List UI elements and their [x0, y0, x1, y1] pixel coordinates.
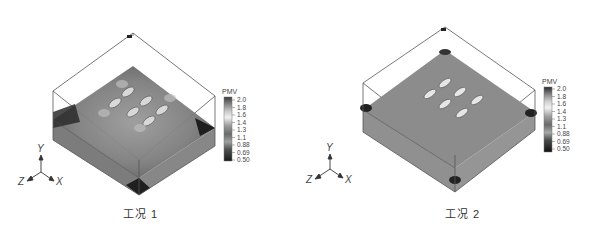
- colorbar-1: [224, 97, 232, 161]
- axis-label-z: Z: [18, 176, 24, 187]
- colorbar-tick: 0.69: [557, 138, 570, 145]
- colorbar-title: PMV: [222, 88, 237, 95]
- panel-case-2: PMV 2.0 1.8 1.6 1.4 1.3 1.1 0.88 0.69 0.…: [300, 0, 591, 228]
- isometric-box-plot-1: [0, 0, 300, 228]
- panel-caption: 工况 1: [123, 205, 158, 221]
- axis-label-x: X: [56, 176, 63, 187]
- colorbar-title: PMV: [542, 78, 557, 85]
- colorbar-tick: 2.0: [237, 96, 246, 103]
- colorbar-tick: 1.1: [237, 134, 246, 141]
- colorbar-tick: 1.1: [557, 123, 566, 130]
- panel-caption: 工况 2: [445, 205, 480, 221]
- colorbar-tick: 1.6: [237, 111, 246, 118]
- colorbar-tick: 1.8: [237, 104, 246, 111]
- colorbar-tick: 0.88: [557, 130, 570, 137]
- colorbar-tick: 2.0: [557, 85, 566, 92]
- colorbar-tick: 0.69: [237, 149, 250, 156]
- colorbar-tick: 1.4: [557, 108, 566, 115]
- colorbar-tick: 1.4: [237, 119, 246, 126]
- colorbar-tick: 1.6: [557, 100, 566, 107]
- panel-case-1: PMV 2.0 1.8 1.6 1.4 1.3 1.1 0.88 0.69 0.…: [0, 0, 300, 228]
- colorbar-tick: 1.8: [557, 93, 566, 100]
- axis-label-z: Z: [306, 174, 312, 185]
- colorbar-tick: 0.88: [237, 141, 250, 148]
- axis-label-x: X: [345, 174, 352, 185]
- colorbar-tick: 1.3: [557, 115, 566, 122]
- colorbar-tick: 0.50: [237, 156, 250, 163]
- axis-label-y: Y: [326, 142, 333, 153]
- isometric-box-plot-2: [300, 0, 591, 228]
- axis-label-y: Y: [37, 143, 44, 154]
- colorbar-2: [544, 87, 552, 152]
- colorbar-tick: 1.3: [237, 126, 246, 133]
- colorbar-tick: 0.50: [557, 145, 570, 152]
